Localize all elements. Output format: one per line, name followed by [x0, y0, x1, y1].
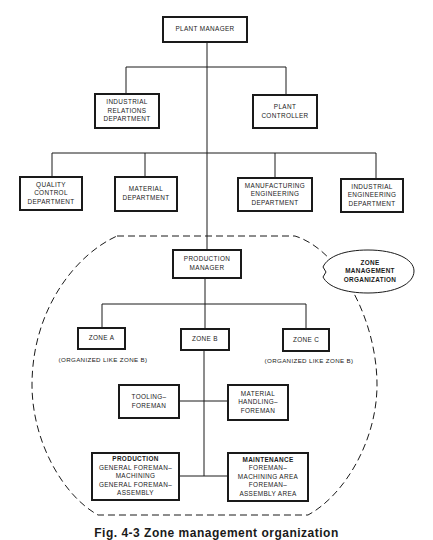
node-line: HANDLING–	[238, 398, 278, 407]
node-line: ZONE B	[192, 335, 218, 344]
node-line: ENGINEERING	[251, 190, 300, 199]
node-line: DEPARTMENT	[28, 198, 75, 207]
figure-caption: Fig. 4-3 Zone management organization	[0, 526, 433, 540]
node-line: DEPARTMENT	[104, 115, 151, 124]
material-handling-foreman-box: MATERIAL HANDLING– FOREMAN	[227, 384, 289, 421]
maintenance-box: MAINTENANCE FOREMAN– MACHINING AREA FORE…	[227, 452, 309, 502]
node-line: MANAGER	[190, 264, 225, 273]
node-line: FOREMAN–	[249, 481, 287, 490]
production-manager-box: PRODUCTION MANAGER	[172, 249, 242, 279]
plant-manager-box: PLANT MANAGER	[162, 16, 248, 43]
node-line: MANUFACTURING	[245, 182, 305, 191]
plant-controller-box: PLANT CONTROLLER	[252, 94, 318, 129]
tooling-foreman-box: TOOLING– FOREMAN	[118, 384, 180, 419]
zone-a-box: ZONE A	[77, 327, 126, 350]
node-line: DEPARTMENT	[349, 200, 396, 209]
node-line: MACHINING	[116, 472, 156, 481]
node-line: FOREMAN–	[249, 464, 287, 473]
manufacturing-engineering-box: MANUFACTURING ENGINEERING DEPARTMENT	[237, 177, 313, 212]
zone-management-label: ZONE MANAGEMENT ORGANIZATION	[344, 259, 396, 284]
node-line: MACHINING AREA	[238, 473, 298, 482]
node-heading: PRODUCTION	[112, 455, 158, 464]
quality-control-box: QUALITY CONTROL DEPARTMENT	[19, 176, 83, 211]
node-line: INDUSTRIAL	[106, 98, 148, 107]
node-line: MATERIAL	[129, 185, 163, 194]
zone-c-note: (ORGANIZED LIKE ZONE B)	[265, 357, 354, 364]
node-line: ENGINEERING	[348, 191, 397, 200]
node-line: ZONE C	[293, 336, 319, 345]
node-line: DEPARTMENT	[252, 199, 299, 208]
node-line: FOREMAN	[132, 402, 166, 411]
node-line: CONTROL	[34, 189, 68, 198]
node-line: QUALITY	[36, 181, 66, 190]
node-line: ASSEMBLY	[117, 489, 154, 498]
zone-a-note: (ORGANIZED LIKE ZONE B)	[59, 356, 148, 363]
label-line: MANAGEMENT	[344, 268, 396, 276]
zone-c-box: ZONE C	[282, 328, 330, 352]
node-line: TOOLING–	[132, 393, 167, 402]
node-line: DEPARTMENT	[123, 194, 170, 203]
zone-b-box: ZONE B	[180, 328, 230, 351]
node-line: GENERAL FOREMAN–	[99, 481, 172, 490]
label-line: ORGANIZATION	[344, 276, 396, 284]
node-line: RELATIONS	[108, 107, 147, 116]
node-line: INDUSTRIAL	[351, 183, 393, 192]
node-line: ASSEMBLY AREA	[239, 490, 296, 499]
node-line: MATERIAL	[241, 390, 275, 399]
node-line: PRODUCTION	[184, 255, 230, 264]
production-box: PRODUCTION GENERAL FOREMAN– MACHINING GE…	[91, 452, 180, 501]
label-line: ZONE	[344, 259, 396, 267]
node-line: PLANT	[274, 103, 296, 112]
plant-manager-label: PLANT MANAGER	[175, 25, 234, 34]
node-heading: MAINTENANCE	[242, 456, 293, 465]
node-line: FOREMAN	[241, 407, 275, 416]
industrial-engineering-box: INDUSTRIAL ENGINEERING DEPARTMENT	[340, 178, 404, 213]
material-department-box: MATERIAL DEPARTMENT	[114, 176, 178, 212]
node-line: GENERAL FOREMAN–	[99, 464, 172, 473]
industrial-relations-box: INDUSTRIAL RELATIONS DEPARTMENT	[94, 93, 160, 129]
node-line: ZONE A	[89, 334, 115, 343]
node-line: CONTROLLER	[261, 112, 308, 121]
